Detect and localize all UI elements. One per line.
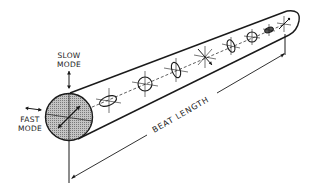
polarization-state-ellipse	[96, 88, 121, 113]
beat-length-label: BEAT LENGTH	[151, 95, 211, 135]
dimension-line-right	[217, 54, 284, 93]
polarization-states	[96, 16, 291, 113]
fast-mode-label-line2: MODE	[18, 124, 42, 133]
arrowhead-right-icon	[38, 108, 42, 112]
polarization-state-circle	[132, 71, 158, 97]
arrowhead-left-icon	[25, 106, 29, 110]
fast-mode-annotation: FAST MODE	[18, 106, 42, 133]
polarization-state-linear	[194, 46, 216, 68]
fast-mode-label-line1: FAST	[20, 115, 39, 124]
arrowhead-icon	[280, 53, 285, 58]
polarization-state-ellipse	[263, 24, 275, 36]
arrowhead-icon	[71, 174, 76, 179]
polarization-state-ellipse	[222, 37, 240, 55]
slow-mode-annotation: SLOW MODE	[57, 51, 81, 89]
beat-length-diagram: SLOW MODE FAST MODE BEAT LENGTH	[0, 0, 313, 192]
beat-length-dimension: BEAT LENGTH	[69, 34, 285, 183]
polarization-state-ellipse	[164, 58, 188, 82]
fiber-cross-section	[46, 94, 93, 141]
slow-mode-label-line2: MODE	[57, 60, 81, 69]
arrowhead-down-icon	[67, 86, 71, 90]
polarization-state-linear	[277, 16, 291, 32]
dimension-line-left	[72, 135, 147, 178]
fiber-end-cap	[287, 11, 299, 35]
polarization-state-circle	[244, 29, 260, 45]
propagation-axis	[69, 24, 285, 117]
arrowhead-up-icon	[67, 71, 71, 75]
slow-mode-label-line1: SLOW	[57, 51, 80, 60]
